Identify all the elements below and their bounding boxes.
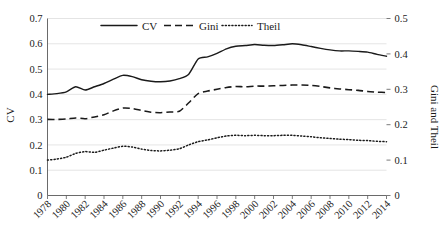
y2-tick-label: 0.5 [395, 13, 408, 24]
y-tick-label: 0.5 [29, 64, 42, 75]
chart-legend: CVGiniTheil [101, 20, 280, 32]
y-tick-label: 0.1 [29, 165, 42, 176]
y-tick-label: 0.7 [29, 13, 42, 24]
x-tick-label: 2012 [351, 198, 374, 221]
y2-tick-label: 0.4 [395, 49, 409, 60]
x-tick-label: 2008 [313, 198, 336, 221]
legend-label-gini: Gini [199, 20, 219, 32]
x-tick-label: 2014 [370, 198, 393, 221]
y2-tick-label: 0.3 [395, 84, 408, 95]
x-tick-label: 1986 [106, 198, 129, 221]
x-tick-label: 2000 [238, 198, 261, 221]
x-tick-label: 1982 [68, 198, 91, 221]
y-axis-title: CV [4, 107, 16, 122]
x-tick-label: 1994 [181, 198, 204, 221]
chart-container: 00.10.20.30.40.50.60.7 00.10.20.30.40.5 … [0, 0, 441, 239]
y2-axis-title: Gini and Theil [429, 85, 441, 149]
y-tick-label: 0 [37, 190, 42, 201]
y2-tick-label: 0.1 [395, 155, 408, 166]
series-line-gini [48, 85, 387, 119]
x-tick-label: 2004 [276, 198, 299, 221]
y2-axis-tick-labels: 00.10.20.30.40.5 [387, 13, 409, 201]
x-tick-label: 2002 [257, 198, 280, 221]
y-tick-label: 0.4 [29, 89, 43, 100]
x-tick-label: 1990 [144, 198, 167, 221]
axis-lines [48, 19, 387, 196]
legend-label-cv: CV [142, 20, 157, 32]
y-tick-label: 0.2 [29, 140, 42, 151]
x-tick-label: 2006 [294, 198, 317, 221]
x-tick-label: 1984 [87, 198, 110, 221]
y-axis-tick-labels: 00.10.20.30.40.50.60.7 [29, 13, 43, 201]
y-tick-label: 0.6 [29, 38, 42, 49]
gridlines [48, 19, 387, 171]
y2-tick-label: 0 [395, 190, 400, 201]
x-axis-tick-labels: 1978198019821984198619881990199219941996… [31, 196, 393, 221]
x-tick-label: 1996 [200, 198, 223, 221]
series-line-theil [48, 135, 387, 160]
x-tick-label: 1998 [219, 198, 242, 221]
data-series-group [48, 44, 387, 160]
x-tick-label: 2010 [332, 198, 355, 221]
x-tick-label: 1992 [163, 198, 186, 221]
x-tick-label: 1978 [31, 198, 54, 221]
line-chart: 00.10.20.30.40.50.60.7 00.10.20.30.40.5 … [0, 0, 441, 239]
legend-label-theil: Theil [257, 20, 280, 32]
y-tick-label: 0.3 [29, 114, 42, 125]
x-tick-label: 1988 [125, 198, 148, 221]
x-tick-label: 1980 [50, 198, 73, 221]
y2-tick-label: 0.2 [395, 119, 408, 130]
